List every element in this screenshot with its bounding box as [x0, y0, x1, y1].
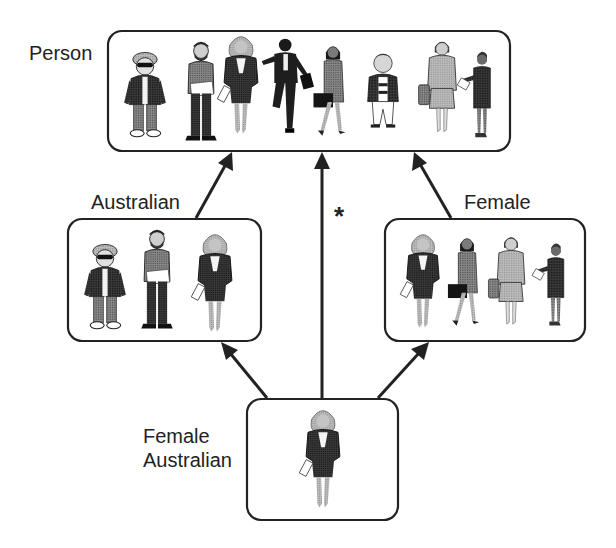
class-hierarchy-diagram: Person Australian Female Female Australi…: [0, 0, 616, 548]
node-person: Person: [29, 31, 510, 151]
arrowhead-female-to-person: [412, 152, 427, 171]
node-female-label: Female: [464, 191, 531, 213]
node-female-australian-label-line2: Australian: [143, 449, 232, 471]
node-female-australian-label: Female Australian: [143, 425, 232, 471]
node-australian: Australian: [68, 191, 261, 341]
edge-female-to-person: [420, 164, 451, 218]
arrowhead-female-australian-to-person: [314, 152, 330, 169]
edge-female-australian-to-australian: [230, 353, 267, 398]
node-australian-label: Australian: [91, 191, 180, 213]
node-female-australian: Female Australian: [143, 399, 398, 520]
arrowhead-australian-to-person: [218, 152, 233, 171]
node-female: Female: [385, 191, 585, 341]
node-female-australian-label-line1: Female: [143, 425, 210, 447]
edge-female-australian-to-female: [378, 353, 419, 398]
edge-australian-to-person: [196, 164, 226, 218]
edge-annotation-asterisk: *: [334, 201, 345, 231]
node-person-label: Person: [29, 42, 92, 64]
